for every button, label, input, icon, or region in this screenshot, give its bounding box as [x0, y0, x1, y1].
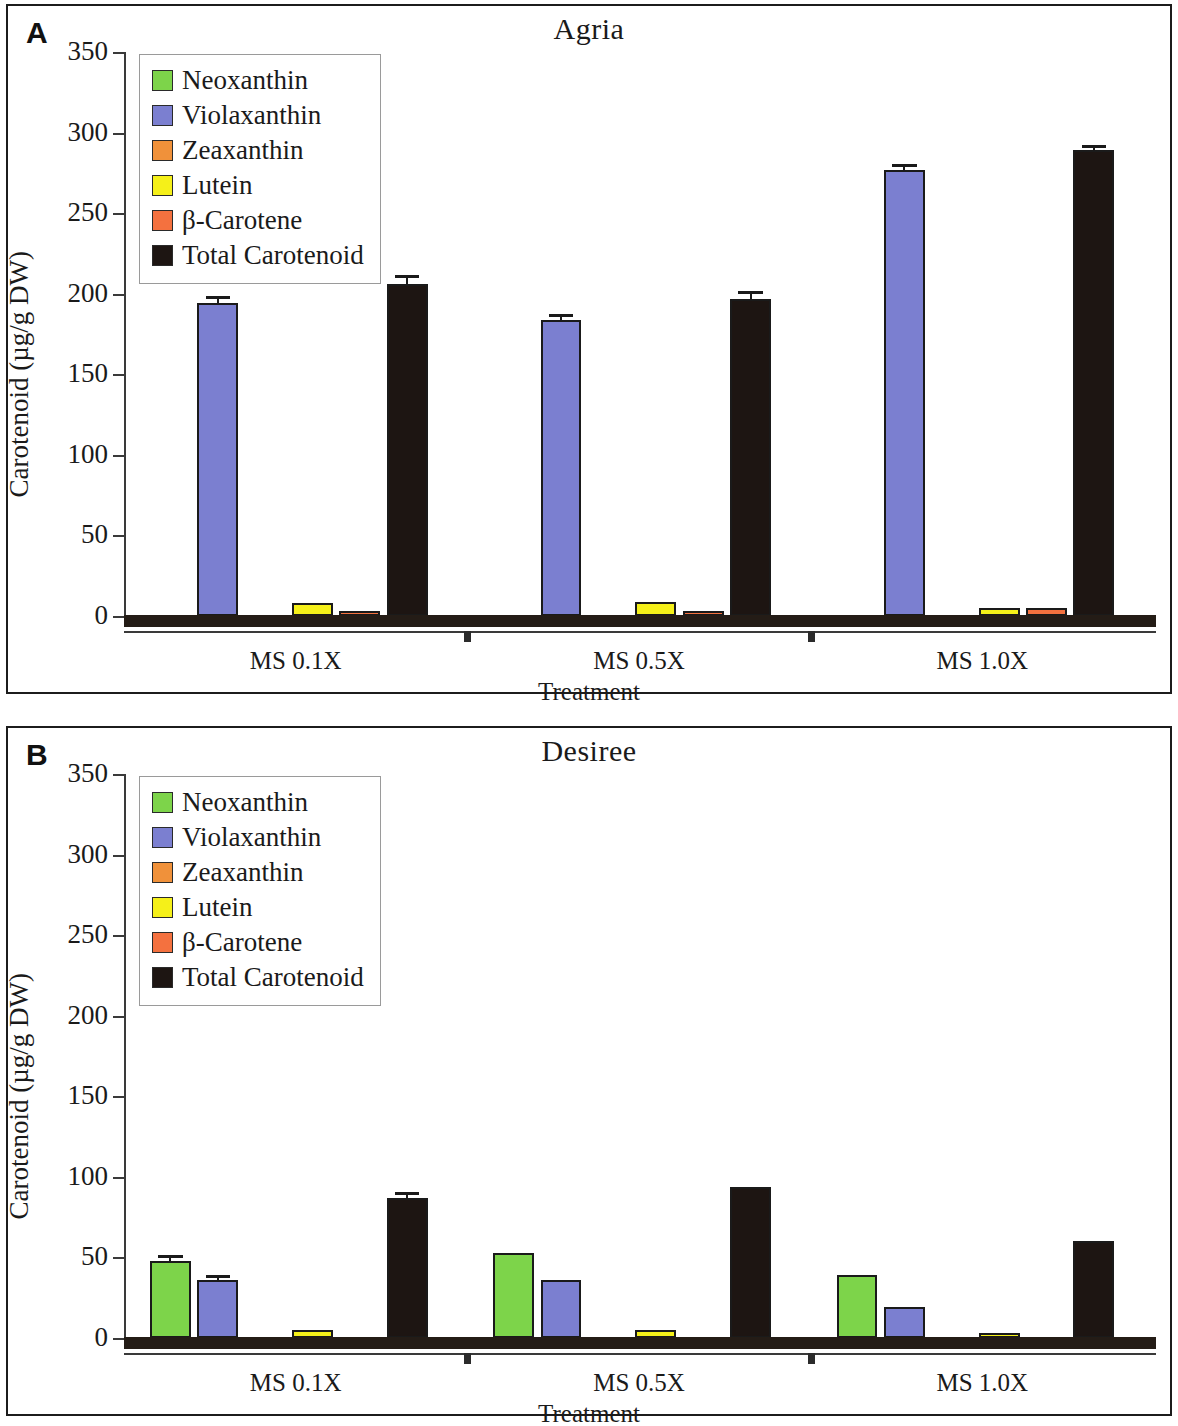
legend-swatch-icon — [152, 70, 173, 91]
y-tick — [113, 1257, 124, 1259]
error-bar-cap — [158, 1255, 182, 1258]
legend-swatch-icon — [152, 897, 173, 918]
error-bar-cap — [549, 314, 573, 317]
x-tick-label: MS 0.5X — [593, 647, 685, 675]
x-tick — [464, 1353, 471, 1364]
legend-item-label: Zeaxanthin — [182, 137, 303, 164]
y-tick-label: 150 — [8, 358, 108, 389]
y-tick — [113, 52, 124, 54]
panel-b: B Desiree Carotenoid (µg/g DW) 050100150… — [6, 726, 1172, 1416]
error-bar — [406, 1195, 408, 1198]
legend-item-label: Lutein — [182, 172, 252, 199]
error-bar — [560, 317, 562, 319]
error-bar-cap — [1082, 145, 1106, 148]
legend-item-label: Neoxanthin — [182, 789, 308, 816]
y-tick — [113, 1016, 124, 1018]
bar-violaxanthin — [884, 170, 925, 616]
y-tick-label: 350 — [8, 758, 108, 789]
bar-violaxanthin — [541, 320, 582, 617]
error-bar — [1093, 148, 1095, 150]
legend-item-label: Total Carotenoid — [182, 242, 364, 269]
bar-total-carotenoid — [387, 284, 428, 616]
y-tick-label: 300 — [8, 116, 108, 147]
legend-item: β-Carotene — [152, 925, 364, 960]
error-bar-cap — [892, 164, 916, 167]
legend-item: Zeaxanthin — [152, 133, 364, 168]
x-tick-label: MS 0.1X — [250, 1369, 342, 1397]
legend-item: Lutein — [152, 890, 364, 925]
bar-violaxanthin — [884, 1307, 925, 1338]
bar-total-carotenoid — [387, 1198, 428, 1338]
bar-violaxanthin — [197, 303, 238, 616]
y-tick — [113, 213, 124, 215]
y-tick-label: 300 — [8, 838, 108, 869]
bar-neoxanthin — [837, 1275, 878, 1338]
error-bar — [406, 278, 408, 284]
legend-item-label: Violaxanthin — [182, 102, 321, 129]
error-bar-cap — [206, 296, 230, 299]
legend-item-label: Total Carotenoid — [182, 964, 364, 991]
x-tick-label: MS 0.1X — [250, 647, 342, 675]
legend-item-label: Lutein — [182, 894, 252, 921]
legend-item: Total Carotenoid — [152, 960, 364, 995]
panel-b-x-axis — [124, 1353, 1156, 1355]
legend-item: Violaxanthin — [152, 820, 364, 855]
error-bar — [169, 1258, 171, 1260]
legend-swatch-icon — [152, 140, 173, 161]
bar-total-carotenoid — [730, 299, 771, 616]
legend-item: Lutein — [152, 168, 364, 203]
x-tick-label: MS 1.0X — [936, 647, 1028, 675]
bar-violaxanthin — [541, 1280, 582, 1338]
legend-item-label: Zeaxanthin — [182, 859, 303, 886]
error-bar — [750, 294, 752, 299]
y-tick — [113, 535, 124, 537]
panel-a-x-axis — [124, 631, 1156, 633]
y-tick — [113, 133, 124, 135]
panel-a-legend: NeoxanthinViolaxanthinZeaxanthinLuteinβ-… — [139, 54, 381, 284]
error-bar-cap — [206, 1275, 230, 1278]
y-tick — [113, 935, 124, 937]
x-tick — [464, 631, 471, 642]
legend-swatch-icon — [152, 862, 173, 883]
y-tick — [113, 616, 124, 618]
bar-neoxanthin — [150, 1261, 191, 1338]
y-tick — [113, 374, 124, 376]
error-bar — [217, 299, 219, 303]
y-tick — [113, 455, 124, 457]
x-tick-label: MS 0.5X — [593, 1369, 685, 1397]
y-tick — [113, 1177, 124, 1179]
legend-swatch-icon — [152, 827, 173, 848]
legend-item: Zeaxanthin — [152, 855, 364, 890]
legend-swatch-icon — [152, 245, 173, 266]
y-tick-label: 150 — [8, 1080, 108, 1111]
error-bar — [903, 167, 905, 169]
legend-item: Neoxanthin — [152, 63, 364, 98]
legend-item: Neoxanthin — [152, 785, 364, 820]
bar-total-carotenoid — [730, 1187, 771, 1338]
y-tick — [113, 1096, 124, 1098]
y-tick-label: 100 — [8, 1161, 108, 1192]
error-bar-cap — [395, 275, 419, 278]
bar-total-carotenoid — [1073, 1241, 1114, 1338]
y-tick-label: 250 — [8, 919, 108, 950]
legend-item-label: Neoxanthin — [182, 67, 308, 94]
bar-neoxanthin — [493, 1253, 534, 1338]
legend-item-label: β-Carotene — [182, 929, 302, 956]
legend-swatch-icon — [152, 210, 173, 231]
y-tick-label: 200 — [8, 278, 108, 309]
panel-b-title: Desiree — [8, 734, 1170, 768]
panel-a-baseline — [124, 615, 1156, 627]
y-tick — [113, 774, 124, 776]
y-tick — [113, 294, 124, 296]
bar-lutein — [635, 602, 676, 616]
y-tick-label: 50 — [8, 1241, 108, 1272]
x-tick-label: MS 1.0X — [936, 1369, 1028, 1397]
legend-item: β-Carotene — [152, 203, 364, 238]
legend-item-label: Violaxanthin — [182, 824, 321, 851]
error-bar — [217, 1278, 219, 1280]
y-tick-label: 250 — [8, 197, 108, 228]
x-tick — [808, 631, 815, 642]
panel-b-x-axis-label: Treatment — [8, 1400, 1170, 1426]
y-tick-label: 100 — [8, 439, 108, 470]
